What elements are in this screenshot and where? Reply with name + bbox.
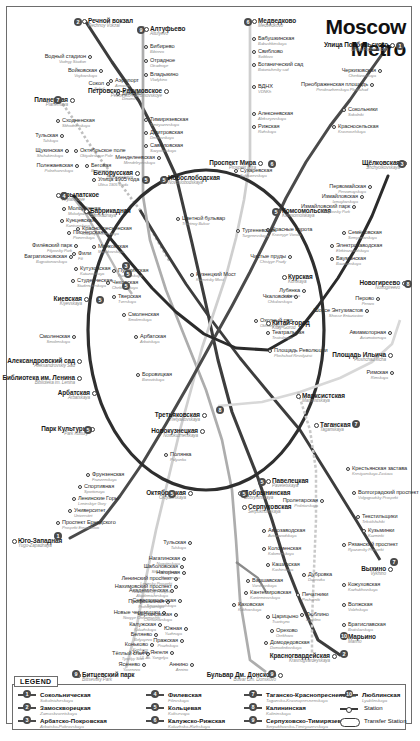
line-number-bullet[interactable]: 5: [122, 282, 130, 290]
station-marker[interactable]: [266, 563, 270, 567]
station-marker[interactable]: [71, 279, 75, 283]
station-marker[interactable]: [144, 131, 148, 135]
station-marker[interactable]: [378, 69, 382, 73]
station-label[interactable]: ЭлектрозаводскаяElektrozavodskaya: [336, 243, 382, 253]
station-marker[interactable]: [252, 50, 256, 54]
station-label[interactable]: ЦарицыноTsaritsyno: [272, 614, 298, 624]
station-marker[interactable]: [75, 164, 79, 168]
station-marker[interactable]: [332, 654, 337, 659]
line-number-bullet[interactable]: 5: [124, 270, 132, 278]
station-label[interactable]: ЧертановскаяChertanovskaya: [137, 612, 172, 622]
station-marker[interactable]: [342, 543, 346, 547]
station-marker[interactable]: [190, 663, 194, 667]
station-marker[interactable]: [182, 571, 186, 575]
station-marker[interactable]: [178, 599, 182, 603]
station-label[interactable]: КоломенскаяKolomenskaya: [268, 546, 301, 556]
station-label[interactable]: ТульскаяTulskaya: [35, 133, 58, 143]
station-label[interactable]: ТургеневскаяTurgenevskaya: [242, 228, 275, 238]
station-marker[interactable]: [202, 413, 207, 418]
station-marker[interactable]: [362, 529, 366, 533]
station-label[interactable]: Парк КультурыPark Kultury: [41, 426, 88, 437]
station-marker[interactable]: [158, 623, 162, 627]
station-label[interactable]: НовослободскаяNovoslobodskaya: [168, 175, 220, 186]
station-marker[interactable]: [106, 281, 110, 285]
station-marker[interactable]: [360, 195, 364, 199]
station-marker[interactable]: [342, 603, 346, 607]
line-number-bullet[interactable]: 3: [122, 262, 130, 270]
line-number-bullet[interactable]: 9: [72, 670, 80, 678]
station-label[interactable]: Улица 1905 годаUlitsa 1905 Goda: [98, 177, 139, 187]
station-marker[interactable]: [92, 245, 96, 249]
station-label[interactable]: АвтозаводскаяAvtozavodskaya: [268, 528, 305, 538]
station-label[interactable]: Ботанический садBotanichesky sad: [258, 62, 303, 72]
station-marker[interactable]: [188, 541, 192, 545]
station-marker[interactable]: [62, 207, 66, 211]
line-number-bullet[interactable]: 10: [340, 632, 348, 640]
station-label[interactable]: ФилиFili: [78, 251, 91, 261]
station-marker[interactable]: [77, 376, 82, 381]
station-label[interactable]: КутузовскаяKutuzovskaya: [80, 266, 110, 276]
station-label[interactable]: Речной вокзалRechnoy Vokzal: [88, 18, 133, 29]
station-marker[interactable]: [388, 567, 393, 572]
station-label[interactable]: ДомодедовскаяDomodedovskaya: [270, 640, 310, 650]
line-number-bullet[interactable]: 5: [240, 490, 248, 498]
station-label[interactable]: АлтуфьевоAltufyevo: [150, 26, 185, 37]
station-label[interactable]: Ленинские ГорыLeninskiye Gory: [78, 496, 119, 506]
station-label[interactable]: ДмитровскаяDmitrovskaya: [150, 130, 183, 140]
line-number-bullet[interactable]: 5: [258, 478, 266, 486]
station-label[interactable]: ДубровкаDubrovka: [308, 572, 332, 582]
station-marker[interactable]: [388, 353, 393, 358]
station-marker[interactable]: [294, 295, 298, 299]
station-marker[interactable]: [68, 509, 72, 513]
station-label[interactable]: Ул. Ак. ЯнгеляUl. Ak. Yangelya: [132, 650, 168, 660]
station-label[interactable]: ЧкаловскаяChkalovskaya: [263, 294, 292, 304]
station-marker[interactable]: [270, 629, 274, 633]
station-marker[interactable]: [142, 663, 146, 667]
station-label[interactable]: ВойковскаяVoykovskaya: [68, 68, 97, 78]
station-label[interactable]: ВДНХVDNKh: [258, 84, 273, 94]
station-marker[interactable]: [180, 565, 184, 569]
station-label[interactable]: КантемировскаяKantemirovskaya: [250, 590, 291, 600]
station-marker[interactable]: [122, 313, 126, 317]
station-label[interactable]: Площадь ИльичаPloshchad Ilicha: [332, 352, 386, 363]
station-marker[interactable]: [88, 55, 92, 59]
station-label[interactable]: ТаганскаяTaganskaya: [320, 422, 351, 433]
station-label[interactable]: СухаревскаяSukharevskaya: [240, 168, 272, 178]
station-label[interactable]: БибиревоBibirevo: [150, 44, 175, 54]
line-number-bullet[interactable]: 5: [168, 490, 176, 498]
station-marker[interactable]: [252, 125, 256, 129]
station-label[interactable]: РижскаяRizhskaya: [258, 124, 279, 134]
station-marker[interactable]: [72, 497, 76, 501]
station-label[interactable]: ПражскаяPrazhskaya: [153, 638, 178, 648]
station-label[interactable]: Крестьянская заставаKrestyanskaya Zastav…: [352, 466, 407, 476]
station-marker[interactable]: [176, 217, 180, 221]
station-marker[interactable]: [74, 149, 78, 153]
station-label[interactable]: РимскаяRimskaya: [366, 370, 388, 380]
station-label[interactable]: БоровицкаяBorovitskaya: [142, 372, 172, 382]
station-marker[interactable]: [134, 335, 138, 339]
line-number-bullet[interactable]: 7: [54, 96, 62, 104]
station-marker[interactable]: [330, 244, 334, 248]
station-label[interactable]: Чистые прудыChistyye Prudy: [250, 254, 286, 264]
station-marker[interactable]: [84, 209, 89, 214]
line-number-bullet[interactable]: 7: [390, 558, 398, 566]
station-marker[interactable]: [232, 603, 236, 607]
station-marker[interactable]: [65, 149, 69, 153]
station-marker[interactable]: [174, 585, 178, 589]
station-label[interactable]: МедведковоMedvedkovo: [258, 18, 296, 29]
station-marker[interactable]: [302, 289, 306, 293]
station-label[interactable]: МарксистскаяMarksistskaya: [302, 393, 345, 404]
line-number-bullet[interactable]: 6: [244, 18, 252, 26]
line-number-bullet[interactable]: 2: [74, 18, 82, 26]
station-marker[interactable]: [288, 255, 292, 259]
station-label[interactable]: ТульскаяTulskaya: [163, 540, 186, 550]
station-label[interactable]: Филёвский паркFilyovsky Park: [32, 243, 72, 253]
station-marker[interactable]: [252, 19, 257, 24]
station-marker[interactable]: [70, 98, 75, 103]
station-label[interactable]: БратиславскаяBratislavskaya: [348, 622, 386, 632]
station-label[interactable]: БеговаяBegovaya: [91, 163, 111, 173]
station-label[interactable]: КожуховскаяKozhukhovskaya: [348, 582, 380, 592]
station-label[interactable]: ВаршавскаяVarshavskaya: [252, 578, 283, 588]
station-label[interactable]: Кузнецкий МостKuznetsky Most: [196, 272, 236, 282]
station-marker[interactable]: [99, 69, 103, 73]
